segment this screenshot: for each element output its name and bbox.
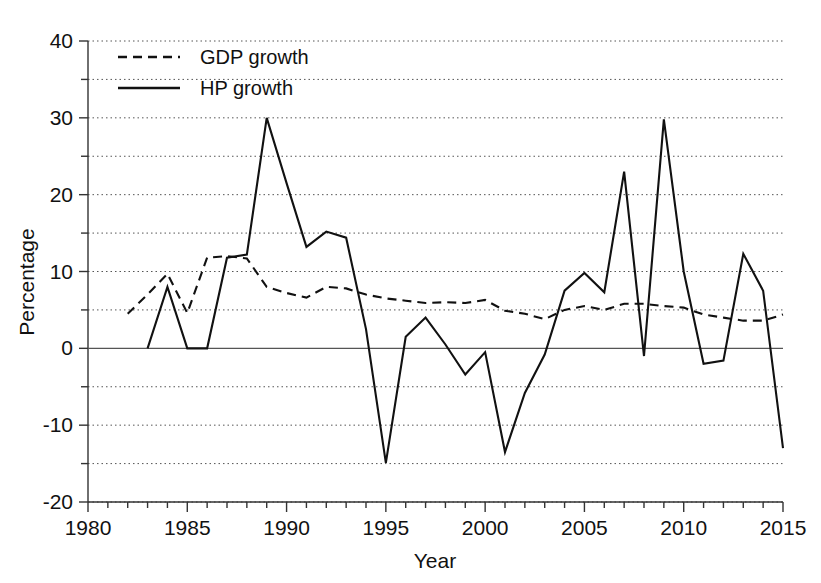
y-tick-label: 0 xyxy=(61,336,73,359)
data-series xyxy=(128,118,783,463)
x-tick-label: 2010 xyxy=(660,516,707,539)
y-axis-title: Percentage xyxy=(15,228,38,335)
legend-label-0[interactable]: GDP growth xyxy=(200,46,309,68)
y-tick-label: -20 xyxy=(43,490,73,513)
tick-labels: -20-100102030401980198519901995200020052… xyxy=(43,29,807,539)
y-tick-label: 20 xyxy=(50,183,73,206)
legend-label-1[interactable]: HP growth xyxy=(200,77,293,99)
x-tick-label: 2000 xyxy=(462,516,509,539)
x-tick-label: 2005 xyxy=(561,516,608,539)
x-tick-label: 1985 xyxy=(164,516,211,539)
y-tick-label: 10 xyxy=(50,260,73,283)
x-tick-label: 1995 xyxy=(362,516,409,539)
x-axis-title: Year xyxy=(414,549,456,572)
x-tick-label: 2015 xyxy=(760,516,807,539)
gridlines xyxy=(88,41,783,502)
y-tick-label: -10 xyxy=(43,413,73,436)
y-tick-label: 30 xyxy=(50,106,73,129)
x-tick-label: 1980 xyxy=(65,516,112,539)
series-line-hp-growth xyxy=(148,118,783,463)
chart-figure: -20-100102030401980198519901995200020052… xyxy=(0,0,821,583)
legend[interactable]: GDP growthHP growth xyxy=(118,46,309,99)
axes xyxy=(79,41,783,512)
y-tick-label: 40 xyxy=(50,29,73,52)
line-chart: -20-100102030401980198519901995200020052… xyxy=(0,0,821,583)
x-tick-label: 1990 xyxy=(263,516,310,539)
